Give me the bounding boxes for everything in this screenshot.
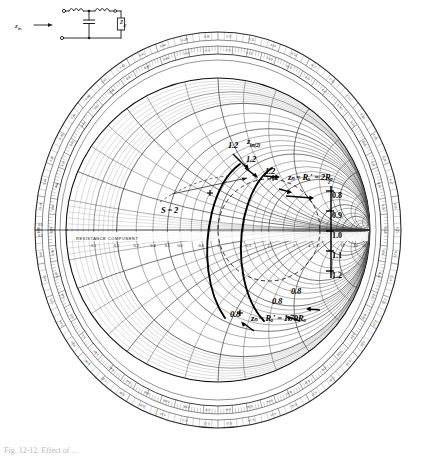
wavelength-origin-marks: 0.0 0.5 xyxy=(35,223,68,238)
svg-text:0.00: 0.00 xyxy=(50,204,55,210)
svg-text:0.21: 0.21 xyxy=(370,160,376,167)
figure-caption: Fig. 12-12. Effect of ... xyxy=(4,446,434,455)
smith-chart: 0.000.010.020.030.040.050.060.070.080.09… xyxy=(32,26,404,432)
smith-chart-svg: 0.000.010.020.030.040.050.060.070.080.09… xyxy=(32,26,404,432)
svg-text:0.01: 0.01 xyxy=(38,251,43,258)
svg-text:0.09: 0.09 xyxy=(138,402,145,408)
svg-text:0.34: 0.34 xyxy=(291,52,298,58)
svg-text:0.4: 0.4 xyxy=(150,243,156,248)
svg-text:0.37: 0.37 xyxy=(226,34,232,38)
annotation-zin-1-value: zₙ = Rₒ′ = 1.79Rₒ xyxy=(251,314,306,323)
svg-text:0.31: 0.31 xyxy=(345,94,352,101)
scale-label-1-1: 1.1 xyxy=(332,251,342,260)
annotation-swr: S = 2 xyxy=(161,206,178,215)
annotation-freq-1-2-c: 1.2 xyxy=(265,167,275,176)
svg-text:0.23: 0.23 xyxy=(388,275,393,282)
svg-text:0.11: 0.11 xyxy=(181,418,188,423)
svg-text:0.32: 0.32 xyxy=(303,379,310,386)
svg-text:0.12: 0.12 xyxy=(226,48,232,52)
zin-label: zin xyxy=(14,22,22,31)
svg-text:0.48: 0.48 xyxy=(42,178,47,185)
svg-text:0.41: 0.41 xyxy=(125,379,132,386)
svg-text:0.40: 0.40 xyxy=(143,390,150,396)
annotation-freq-0-8-b: 0.8 xyxy=(272,297,282,306)
svg-text:0.05: 0.05 xyxy=(70,340,77,347)
svg-text:0.2: 0.2 xyxy=(114,243,119,248)
svg-text:0.25: 0.25 xyxy=(395,227,399,233)
svg-text:10: 10 xyxy=(340,243,344,248)
svg-text:0.15: 0.15 xyxy=(286,64,293,70)
svg-text:0.25: 0.25 xyxy=(381,250,386,256)
svg-text:20: 20 xyxy=(353,243,357,248)
svg-text:0.26: 0.26 xyxy=(377,272,382,279)
annotation-zin-2-value: zₙ = Rₒ′ = 2Rₒ xyxy=(288,173,333,182)
annotation-freq-0-8-c: 0.8 xyxy=(291,287,301,296)
scale-label-1-0: 1.0 xyxy=(332,231,342,240)
resistance-component-text: RESISTANCE COMPONENT xyxy=(76,236,138,241)
svg-text:0.38: 0.38 xyxy=(204,34,210,38)
svg-text:0.47: 0.47 xyxy=(54,271,59,278)
inductor-1-icon xyxy=(69,9,83,12)
svg-text:0.27: 0.27 xyxy=(370,293,376,300)
svg-text:0.1: 0.1 xyxy=(91,243,96,248)
svg-text:1.5: 1.5 xyxy=(246,243,251,248)
svg-text:0.02: 0.02 xyxy=(42,275,47,282)
scale-label-0-9: 0.9 xyxy=(332,211,342,220)
scale-label-0-8: 0.8 xyxy=(332,191,342,200)
svg-text:0.19: 0.19 xyxy=(345,359,352,366)
svg-text:0.13: 0.13 xyxy=(246,51,253,56)
svg-text:0.49: 0.49 xyxy=(38,202,43,209)
svg-text:0.45: 0.45 xyxy=(70,112,77,119)
svg-text:0.8: 0.8 xyxy=(198,243,203,248)
svg-text:50: 50 xyxy=(362,243,366,248)
svg-text:0.24: 0.24 xyxy=(383,227,387,233)
svg-text:0.01: 0.01 xyxy=(54,182,59,189)
svg-text:0.37: 0.37 xyxy=(204,407,210,411)
svg-text:0.3: 0.3 xyxy=(134,243,139,248)
svg-text:0.14: 0.14 xyxy=(266,56,273,62)
annotation-freq-1-2-a: 1.2 xyxy=(228,141,238,150)
wavelength-half-label: 0.5 xyxy=(38,234,43,238)
svg-text:0.06: 0.06 xyxy=(84,359,91,366)
svg-text:0.48: 0.48 xyxy=(50,249,55,255)
svg-text:0.6: 0.6 xyxy=(177,243,182,248)
svg-text:2: 2 xyxy=(268,243,270,248)
svg-text:0.16: 0.16 xyxy=(290,402,297,408)
svg-text:3: 3 xyxy=(293,243,295,248)
svg-text:0.07: 0.07 xyxy=(125,75,132,82)
svg-text:0.5: 0.5 xyxy=(165,243,170,248)
svg-text:0.16: 0.16 xyxy=(304,75,311,82)
svg-text:1: 1 xyxy=(217,243,219,248)
inductor-2-icon xyxy=(95,9,109,12)
svg-text:0.36: 0.36 xyxy=(248,37,255,42)
svg-text:0.23: 0.23 xyxy=(381,204,386,210)
svg-text:0.11: 0.11 xyxy=(205,48,211,52)
svg-text:0.41: 0.41 xyxy=(138,51,145,57)
svg-text:0.08: 0.08 xyxy=(144,64,151,70)
svg-text:0.34: 0.34 xyxy=(266,398,273,404)
svg-text:0.27: 0.27 xyxy=(389,179,394,186)
annotation-freq-0-8-a: 0.8 xyxy=(230,310,240,319)
svg-text:0.33: 0.33 xyxy=(285,390,292,396)
svg-text:0.38: 0.38 xyxy=(183,404,190,409)
scale-label-1-2: 1.2 xyxy=(332,271,342,280)
svg-text:0.20: 0.20 xyxy=(359,340,366,347)
svg-text:0.26: 0.26 xyxy=(393,203,398,210)
svg-text:0.30: 0.30 xyxy=(359,113,366,120)
svg-text:0.36: 0.36 xyxy=(225,407,231,411)
svg-text:0.46: 0.46 xyxy=(60,293,66,300)
svg-text:0.40: 0.40 xyxy=(159,43,166,49)
svg-text:0.24: 0.24 xyxy=(393,251,398,258)
annotation-freq-1-2-b: 1.2 xyxy=(246,155,256,164)
svg-text:0.44: 0.44 xyxy=(84,94,91,101)
svg-text:0.09: 0.09 xyxy=(163,56,170,62)
terminal-left-top xyxy=(62,9,65,12)
svg-text:0.39: 0.39 xyxy=(163,398,170,404)
wavelength-zero-label: 0.0 xyxy=(38,223,43,227)
svg-text:0.02: 0.02 xyxy=(60,160,66,167)
svg-text:0.10: 0.10 xyxy=(159,411,166,417)
svg-text:5: 5 xyxy=(318,243,320,248)
svg-text:0.12: 0.12 xyxy=(203,421,209,425)
annotation-zin-2: zin(2) xyxy=(247,137,260,148)
svg-text:0.13: 0.13 xyxy=(226,421,232,425)
